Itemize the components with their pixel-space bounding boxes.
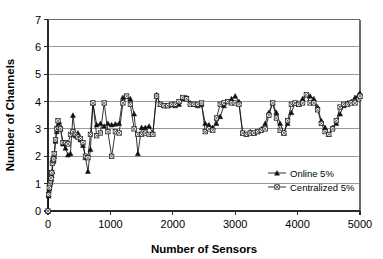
y-tick-label-7: 7 — [35, 14, 41, 26]
y-tick-label-1: 1 — [35, 178, 41, 190]
x-tick-label-0: 0 — [45, 218, 51, 230]
x-axis-title: Number of Sensors — [151, 243, 257, 255]
y-tick-label-4: 4 — [35, 96, 41, 108]
x-tick-label-2000: 2000 — [161, 218, 185, 230]
y-tick-label-3: 3 — [35, 123, 41, 135]
x-tick-label-3000: 3000 — [223, 218, 247, 230]
y-axis-title: Number of Channels — [4, 59, 16, 171]
chart-figure: 01234567 010002000300040005000 Online 5%… — [0, 0, 383, 259]
legend-label-1: Online 5% — [290, 168, 334, 179]
y-tick-label-5: 5 — [35, 68, 41, 80]
legend-label-2: Centralized 5% — [290, 182, 355, 193]
x-tick-label-5000: 5000 — [348, 218, 372, 230]
y-tick-label-2: 2 — [35, 150, 41, 162]
y-tick-label-0: 0 — [35, 205, 41, 217]
x-tick-label-4000: 4000 — [285, 218, 309, 230]
x-tick-label-1000: 1000 — [98, 218, 122, 230]
y-tick-label-6: 6 — [35, 41, 41, 53]
chart-canvas: 01234567 010002000300040005000 Online 5%… — [0, 0, 383, 259]
